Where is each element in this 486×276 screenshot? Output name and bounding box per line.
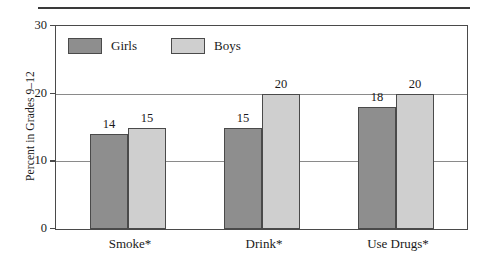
bar-smoke-girls <box>90 134 128 229</box>
y-axis-title: Percent in Grades 9–12 <box>24 26 36 226</box>
x-label-drink: Drink* <box>194 236 334 252</box>
bar-value-drink-girls: 15 <box>224 111 262 126</box>
x-label-use-drugs: Use Drugs* <box>328 236 468 252</box>
bar-wrap-drugs-girls: 18 <box>358 26 396 229</box>
bar-drugs-boys <box>396 94 434 229</box>
bar-value-drink-boys: 20 <box>262 77 300 92</box>
bar-value-smoke-boys: 15 <box>128 111 166 126</box>
bar-wrap-smoke-girls: 14 <box>90 26 128 229</box>
x-label-smoke: Smoke* <box>60 236 200 252</box>
bar-value-smoke-girls: 14 <box>90 117 128 132</box>
top-horizontal-rule <box>38 7 470 9</box>
bar-wrap-drink-boys: 20 <box>262 26 300 229</box>
y-tick-label-30: 30 <box>35 18 48 33</box>
bar-value-drugs-girls: 18 <box>358 90 396 105</box>
bar-drugs-girls <box>358 107 396 229</box>
bar-group-smoke: 14 15 <box>90 26 166 229</box>
legend-swatch-boys <box>171 38 205 54</box>
bar-wrap-drugs-boys: 20 <box>396 26 434 229</box>
bar-group-drink: 15 20 <box>224 26 300 229</box>
bar-chart-figure: Percent in Grades 9–12 30 20 10 0 Girls … <box>0 0 486 276</box>
plot-area: Girls Boys 14 15 15 20 <box>55 25 468 230</box>
bar-wrap-smoke-boys: 15 <box>128 26 166 229</box>
bar-value-drugs-boys: 20 <box>396 77 434 92</box>
y-tick-label-10: 10 <box>35 153 48 168</box>
y-tick-label-0: 0 <box>41 221 47 236</box>
bar-smoke-boys <box>128 128 166 230</box>
bar-group-use-drugs: 18 20 <box>358 26 434 229</box>
bar-drink-girls <box>224 128 262 230</box>
y-tick-label-20: 20 <box>35 85 48 100</box>
bar-wrap-drink-girls: 15 <box>224 26 262 229</box>
bar-drink-boys <box>262 94 300 229</box>
